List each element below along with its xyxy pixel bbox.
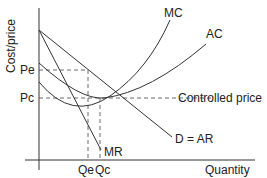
- qe-label: Qe: [78, 164, 94, 176]
- demand-ar-curve: [39, 30, 172, 137]
- y-axis-label: Cost/price: [4, 19, 18, 73]
- mr-curve: [39, 30, 101, 150]
- qc-label: Qc: [95, 164, 110, 176]
- monopoly-price-control-diagram: [0, 0, 267, 178]
- pc-label: Pc: [20, 92, 34, 104]
- mc-curve: [39, 20, 170, 106]
- x-axis-label: Quantity: [205, 164, 250, 176]
- controlled-price-label: Controlled price: [178, 92, 262, 104]
- demand-ar-label: D = AR: [175, 133, 213, 145]
- mr-label: MR: [104, 146, 123, 158]
- ac-curve: [39, 44, 206, 98]
- ac-label: AC: [206, 28, 223, 40]
- pe-label: Pe: [20, 64, 35, 76]
- mc-label: MC: [164, 7, 183, 19]
